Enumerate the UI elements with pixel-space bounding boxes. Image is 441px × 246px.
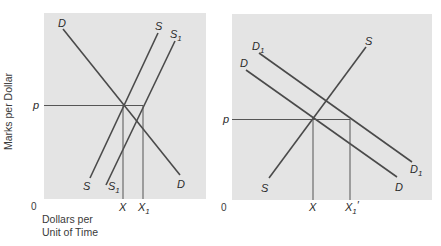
y-axis-label: Marks per Dollar xyxy=(2,73,14,150)
left-tick-x1: X1 xyxy=(137,201,150,216)
left-origin-label: 0 xyxy=(31,201,37,212)
left-label-s-top: S xyxy=(155,20,163,32)
left-tick-x: X xyxy=(118,201,127,213)
diagram-canvas: D D S S S1 S1 p 0 X X1 D1 D1 D D S S p 0… xyxy=(0,0,441,246)
left-label-d-top: D xyxy=(58,17,66,29)
x-axis-label-line2: Unit of Time xyxy=(42,226,98,239)
x-axis-label: Dollars per Unit of Time xyxy=(42,213,98,239)
right-panel: D1 D1 D D S S p 0 X X1′ xyxy=(221,14,432,216)
left-panel: D D S S S1 S1 p 0 X X1 xyxy=(31,13,206,216)
left-label-s-bottom: S xyxy=(83,180,91,192)
right-label-d-top: D xyxy=(240,57,248,69)
right-label-s-top: S xyxy=(365,35,373,47)
right-label-d-bottom: D xyxy=(395,181,403,193)
left-label-d-bottom: D xyxy=(177,178,185,190)
x-axis-label-line1: Dollars per xyxy=(42,213,98,226)
right-price-label: p xyxy=(222,113,229,125)
right-tick-x: X xyxy=(308,201,317,213)
right-label-s-bottom: S xyxy=(261,182,269,194)
left-price-label: p xyxy=(32,99,39,111)
right-tick-x1prime: X1′ xyxy=(344,199,360,216)
right-panel-background xyxy=(232,14,432,200)
right-origin-label: 0 xyxy=(221,202,227,213)
